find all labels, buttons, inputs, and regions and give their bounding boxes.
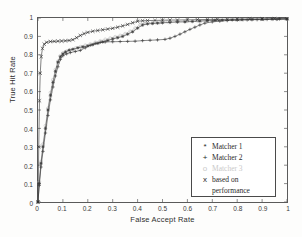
y-tick-label: 0.1: [9, 181, 33, 188]
legend-label-continuation: performance: [192, 186, 275, 196]
x-tick-label: 0.7: [208, 205, 217, 212]
x-tick-label: 1: [286, 205, 290, 212]
x-tick-label: 0.5: [158, 205, 167, 212]
x-axis-title: False Accept Rate: [37, 215, 288, 224]
y-tick-label: 0: [9, 200, 33, 207]
y-tick-label: 0.9: [9, 32, 33, 39]
y-tick-label: 1: [9, 14, 33, 21]
y-tick-label: 0.6: [9, 88, 33, 95]
asterisk-marker-icon: *: [198, 142, 212, 152]
roc-chart-figure: True Hit Rate 1 0.9 0.8 0.7 0.6 0.5 0.4 …: [0, 0, 302, 237]
x-tick-label: 0.8: [233, 205, 242, 212]
y-tick-label: 0.7: [9, 69, 33, 76]
y-tick-label: 0.4: [9, 125, 33, 132]
y-tick-label: 0.5: [9, 107, 33, 114]
y-tick-label: 0.2: [9, 162, 33, 169]
x-tick-label: 0.3: [108, 205, 117, 212]
legend-item-matcher-3: o Matcher 3: [192, 164, 275, 175]
x-tick-label: 0.4: [133, 205, 142, 212]
legend-item-matcher-2: + Matcher 2: [192, 153, 275, 164]
cross-marker-icon: x: [198, 175, 212, 185]
legend-label: Matcher 2: [212, 153, 243, 163]
plus-marker-icon: +: [198, 153, 212, 163]
legend-label: Matcher 1: [212, 142, 243, 152]
circle-marker-icon: o: [198, 164, 212, 174]
legend-label: based on: [212, 175, 238, 185]
x-tick-label: 0: [35, 205, 39, 212]
legend-item-based-on-performance: x based on: [192, 175, 275, 186]
legend-label: Matcher 3: [212, 164, 243, 174]
x-tick-label: 0.1: [58, 205, 67, 212]
x-tick-label: 0.6: [183, 205, 192, 212]
y-tick-label: 0.8: [9, 51, 33, 58]
legend-item-matcher-1: * Matcher 1: [192, 142, 275, 153]
legend-box: * Matcher 1 + Matcher 2 o Matcher 3 x ba…: [191, 137, 276, 197]
y-tick-label: 0.3: [9, 144, 33, 151]
x-tick-label: 0.9: [258, 205, 267, 212]
x-tick-label: 0.2: [83, 205, 92, 212]
